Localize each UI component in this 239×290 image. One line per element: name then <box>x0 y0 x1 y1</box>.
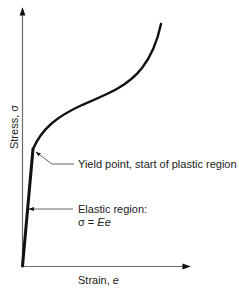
elastic-region-annotation: Elastic region: <box>78 203 147 216</box>
elastic-segment <box>23 149 34 266</box>
diagram-canvas <box>0 0 239 290</box>
elastic-formula: σ = Ee <box>78 216 111 229</box>
x-axis-label: Strain, e <box>78 274 119 287</box>
plastic-curve <box>33 24 161 149</box>
stress-strain-diagram: Stress, σ Strain, e Yield point, start o… <box>0 0 239 290</box>
yield-point-annotation: Yield point, start of plastic region <box>78 158 237 171</box>
y-axis-label: Stress, σ <box>8 92 21 162</box>
yield-leader-line <box>36 152 74 164</box>
